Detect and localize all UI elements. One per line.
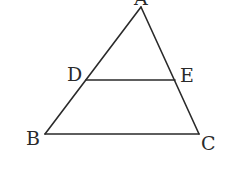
triangle-abc-diagram: A D E B C [0, 0, 236, 179]
label-e: E [180, 64, 194, 86]
segment-ab [45, 7, 141, 134]
label-b: B [26, 127, 40, 149]
label-d: D [67, 63, 82, 85]
label-c: C [201, 132, 216, 154]
label-a: A [133, 0, 148, 9]
